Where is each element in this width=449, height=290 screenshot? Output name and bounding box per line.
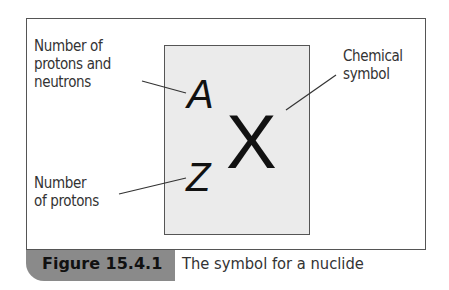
- leader-line-atomic: [119, 178, 186, 194]
- figure-number: Figure 15.4.1: [42, 254, 162, 273]
- figure-caption: The symbol for a nuclide: [182, 254, 364, 273]
- leader-line-symbol: [286, 75, 336, 110]
- leader-lines: [0, 0, 449, 290]
- leader-line-mass: [142, 81, 186, 93]
